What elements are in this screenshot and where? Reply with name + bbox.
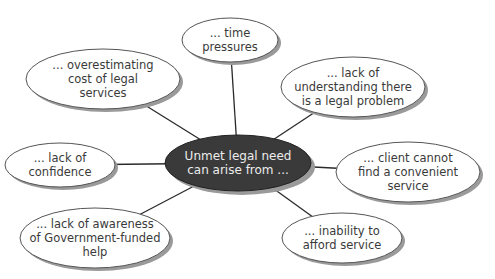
node-label: ... inability to	[304, 224, 380, 238]
node-label: of Government-funded	[30, 231, 161, 245]
center-node: Unmet legal needcan arise from ...	[165, 135, 315, 195]
node-lack-of-understanding: ... lack ofunderstanding thereis a legal…	[281, 57, 428, 120]
node-label: ... lack of	[327, 66, 381, 80]
node-label: pressures	[202, 40, 258, 54]
node-label: find a convenient	[358, 165, 459, 179]
node-client-cannot-find-service: ... client cannotfind a convenientservic…	[336, 142, 483, 205]
node-inability-to-afford: ... inability toafford service	[282, 213, 405, 266]
node-label: ... time	[210, 26, 251, 40]
node-label: service	[387, 179, 428, 193]
node-label: ... lack of	[34, 151, 88, 165]
node-label: is a legal problem	[302, 94, 405, 108]
node-label: cost of legal	[68, 72, 138, 86]
node-lack-of-confidence: ... lack ofconfidence	[5, 143, 118, 190]
center-label: Unmet legal need	[185, 149, 292, 163]
node-label: ... lack of awareness	[36, 217, 154, 231]
center-label: can arise from ...	[187, 163, 289, 177]
node-label: confidence	[29, 165, 92, 179]
node-label: afford service	[303, 238, 382, 252]
node-time-pressures: ... timepressures	[182, 18, 281, 65]
node-label: ... overestimating	[52, 58, 153, 72]
node-label: understanding there	[294, 80, 412, 94]
node-label: services	[79, 86, 126, 100]
mind-map-diagram: ... timepressures... overestimatingcost …	[0, 0, 495, 279]
node-lack-of-awareness: ... lack of awarenessof Government-funde…	[20, 208, 173, 271]
node-overestimating-cost: ... overestimatingcost of legalservices	[26, 49, 183, 112]
node-label: help	[83, 245, 108, 259]
node-label: ... client cannot	[363, 151, 453, 165]
